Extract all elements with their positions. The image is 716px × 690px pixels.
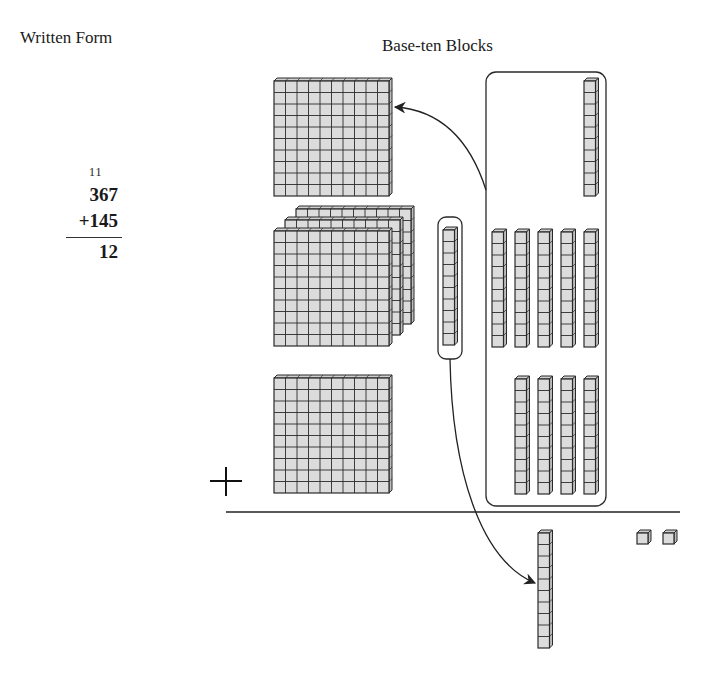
hundreds-flat-regrouped [274, 78, 392, 196]
tens-rod [538, 229, 553, 347]
tens-rod [561, 376, 576, 494]
tens-rod [515, 229, 530, 347]
tens-rod [561, 229, 576, 347]
hundreds-flat-addend-2 [274, 375, 392, 493]
unit-cube [663, 530, 677, 544]
tens-rod [584, 376, 599, 494]
tens-rod [492, 229, 507, 347]
arrow-to-flat [395, 107, 486, 190]
blocks-layer [210, 72, 680, 648]
tens-rod [584, 229, 599, 347]
tens-rod [584, 78, 599, 196]
base-ten-diagram [0, 0, 716, 690]
tens-rod [515, 376, 530, 494]
tens-rod-result [538, 530, 553, 648]
tens-rod-circled [443, 227, 458, 345]
hundreds-flat-addend-1 [274, 228, 392, 346]
unit-cube [637, 530, 651, 544]
tens-rod [538, 376, 553, 494]
